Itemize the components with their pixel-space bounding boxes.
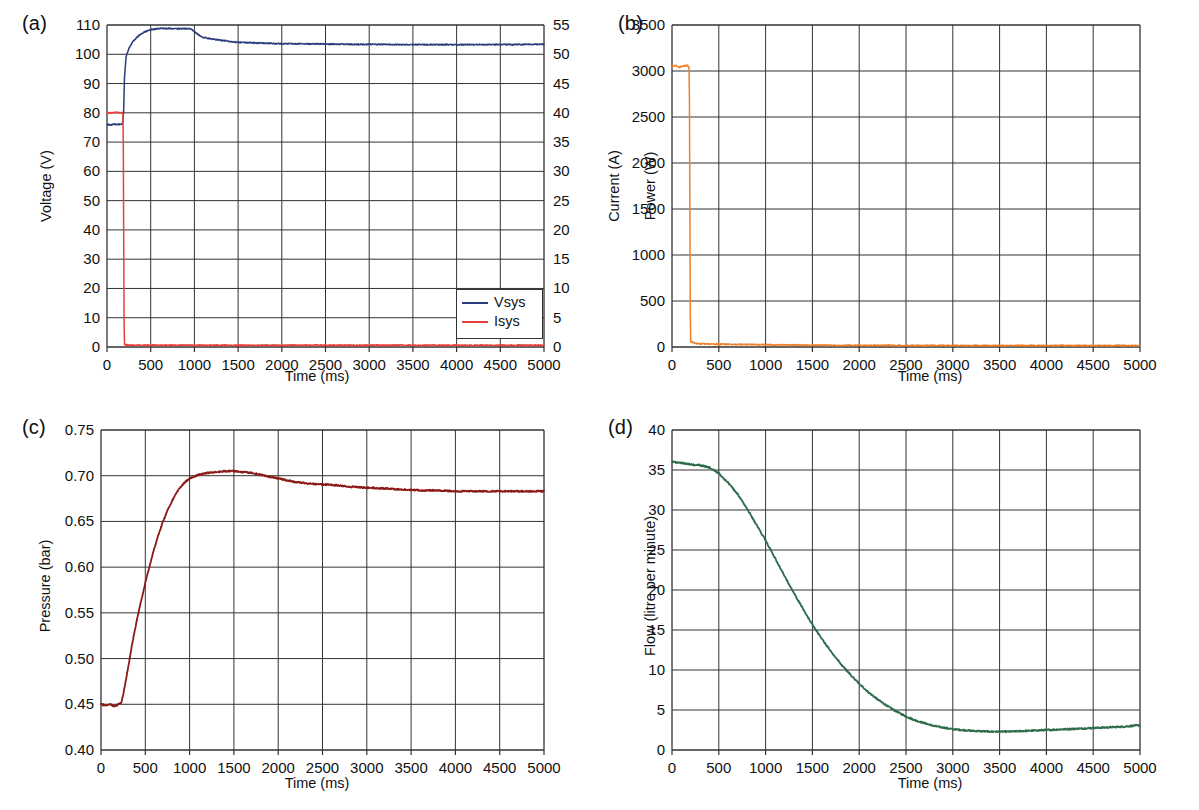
y-tick-label: 2000 (610, 154, 665, 171)
y-tick-label: 0 (610, 741, 665, 758)
y-tick-label: 0.70 (39, 467, 94, 484)
y-tick-label: 100 (45, 45, 100, 62)
y2-tick-label: 25 (553, 192, 598, 209)
x-tick-label: 5000 (1100, 759, 1180, 776)
y2-tick-label: 45 (553, 75, 598, 92)
x-tick-label: 5000 (504, 759, 584, 776)
y2-tick-label: 50 (553, 45, 598, 62)
y-tick-label: 0.75 (39, 421, 94, 438)
panel-c: (c) Pressure (bar) Time (ms) 0.400.450.5… (0, 400, 600, 810)
y-tick-label: 70 (45, 133, 100, 150)
panel-d: (d) Flow (litre per minute) Time (ms) 05… (600, 400, 1199, 810)
panel-a: (a) Voltage (V) Current (A) Time (ms) Vs… (0, 0, 600, 400)
panel-a-legend: Vsys Isys (456, 289, 543, 339)
y2-tick-label: 5 (553, 309, 598, 326)
y2-tick-label: 35 (553, 133, 598, 150)
y-tick-label: 3500 (610, 16, 665, 33)
panel-b: (b) Power (W) Time (ms) 0500100015002000… (600, 0, 1199, 400)
legend-swatch-vsys (462, 302, 488, 304)
y-tick-label: 0.65 (39, 512, 94, 529)
y-tick-label: 5 (610, 701, 665, 718)
y-tick-label: 10 (610, 661, 665, 678)
y2-tick-label: 40 (553, 104, 598, 121)
panel-d-plot-area (600, 400, 1199, 810)
y-tick-label: 0.40 (39, 741, 94, 758)
y-tick-label: 50 (45, 192, 100, 209)
y-tick-label: 3000 (610, 62, 665, 79)
y-tick-label: 0.60 (39, 558, 94, 575)
y-tick-label: 500 (610, 292, 665, 309)
four-panel-measurement-figure: (a) Voltage (V) Current (A) Time (ms) Vs… (0, 0, 1199, 810)
y-tick-label: 0 (610, 338, 665, 355)
legend-item-vsys: Vsys (462, 293, 536, 312)
y2-tick-label: 30 (553, 162, 598, 179)
x-tick-label: 5000 (1100, 356, 1180, 373)
y-tick-label: 20 (45, 279, 100, 296)
y-tick-label: 0.45 (39, 695, 94, 712)
y-tick-label: 15 (610, 621, 665, 638)
y-tick-label: 40 (45, 221, 100, 238)
y-tick-label: 30 (45, 250, 100, 267)
y-tick-label: 110 (45, 16, 100, 33)
y-tick-label: 80 (45, 104, 100, 121)
y-tick-label: 10 (45, 309, 100, 326)
y-tick-label: 35 (610, 461, 665, 478)
legend-label-vsys: Vsys (494, 295, 525, 310)
y-tick-label: 30 (610, 501, 665, 518)
x-tick-label: 5000 (504, 356, 584, 373)
y2-tick-label: 10 (553, 279, 598, 296)
y-tick-label: 2500 (610, 108, 665, 125)
legend-label-isys: Isys (494, 314, 520, 329)
legend-item-isys: Isys (462, 312, 536, 331)
y-tick-label: 0 (45, 338, 100, 355)
panel-b-plot-area (600, 0, 1199, 400)
y2-tick-label: 55 (553, 16, 598, 33)
y2-tick-label: 20 (553, 221, 598, 238)
y-tick-label: 1000 (610, 246, 665, 263)
y-tick-label: 90 (45, 75, 100, 92)
y2-tick-label: 15 (553, 250, 598, 267)
y-tick-label: 60 (45, 162, 100, 179)
y-tick-label: 25 (610, 541, 665, 558)
y2-tick-label: 0 (553, 338, 598, 355)
y-tick-label: 0.55 (39, 604, 94, 621)
y-tick-label: 20 (610, 581, 665, 598)
y-tick-label: 40 (610, 421, 665, 438)
y-tick-label: 0.50 (39, 650, 94, 667)
legend-swatch-isys (462, 321, 488, 323)
y-tick-label: 1500 (610, 200, 665, 217)
